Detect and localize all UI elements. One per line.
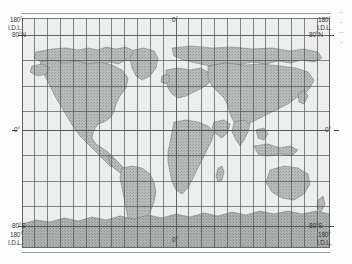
- label-top-left-longitude: 180°: [10, 16, 23, 24]
- figure-top-rule: [22, 13, 330, 14]
- tick-equator-right: [334, 130, 339, 131]
- label-top-right-longitude: 180°: [318, 16, 331, 24]
- label-bottom-right-longitude: 180°: [318, 231, 331, 239]
- tick-80s-right: [328, 226, 334, 227]
- label-equator-right: 0°: [325, 126, 331, 134]
- label-prime-meridian-top: 0°: [172, 16, 178, 24]
- label-bottom-left-longitude: 180°: [10, 231, 23, 239]
- world-map-figure: 180° I.D.L. 180° I.D.L. 180° I.D.L. 180°…: [0, 0, 352, 264]
- label-parallel-80s-left: 80°S: [12, 222, 25, 230]
- tick-80n-right: [328, 35, 334, 36]
- map-plate: [22, 18, 330, 248]
- label-bottom-left-idl: I.D.L.: [8, 239, 22, 247]
- map-graphic: [22, 18, 330, 248]
- label-parallel-80n-right: 80°N: [309, 31, 323, 39]
- label-parallel-80n-left: 80°N: [12, 31, 26, 39]
- scan-margin-speckle: [338, 8, 350, 54]
- label-bottom-right-idl: I.D.L.: [317, 239, 331, 247]
- figure-bottom-rule: [22, 252, 330, 253]
- label-parallel-80s-right: 80°S: [309, 222, 322, 230]
- label-equator-left: 0°: [14, 126, 20, 134]
- label-prime-meridian-bottom: 0°: [172, 236, 178, 244]
